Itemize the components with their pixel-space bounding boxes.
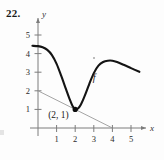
y-axis-arrow-icon	[36, 18, 40, 23]
x-axis-tick-labels: 12345	[54, 134, 133, 144]
tangent-point-marker	[73, 107, 78, 112]
x-axis-arrow-icon	[141, 126, 146, 130]
y-axis-label: y	[41, 9, 46, 19]
y-tick-label: 3	[26, 67, 30, 77]
graph-plot: 12345 12345 x y (2, 1) f	[0, 0, 164, 160]
y-tick-label: 4	[26, 49, 31, 59]
tangent-point-label: (2, 1)	[48, 110, 69, 121]
y-tick-label: 2	[26, 86, 30, 96]
function-curve-label: f	[93, 72, 97, 83]
function-curve	[32, 46, 139, 110]
x-tick-label: 2	[73, 134, 77, 144]
x-tick-label: 1	[54, 134, 58, 144]
x-tick-label: 4	[110, 134, 115, 144]
y-tick-label: 1	[26, 104, 30, 114]
y-axis-tick-labels: 12345	[26, 30, 31, 114]
x-axis-label: x	[149, 123, 154, 133]
y-tick-label: 5	[26, 30, 30, 40]
x-tick-label: 5	[129, 134, 133, 144]
figure-panel: 22. 12345 12345 x y (2, 1) f	[0, 0, 164, 160]
x-tick-label: 3	[92, 134, 96, 144]
